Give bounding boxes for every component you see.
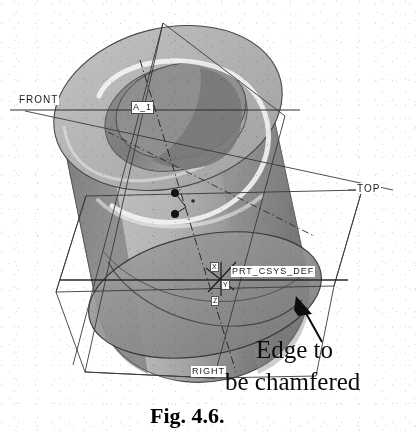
z-axis-tag: Z	[211, 296, 219, 306]
axis-label-a1: A_1	[131, 101, 154, 114]
y-axis-tag: Y	[221, 280, 230, 290]
tube-solid	[36, 2, 332, 382]
x-axis-tag: X	[210, 262, 219, 272]
datum-point-small	[191, 199, 195, 203]
datum-label-right: RIGHT	[191, 366, 226, 377]
figure-caption: Fig. 4.6.	[150, 404, 225, 428]
coord-system-label: PRT_CSYS_DEF	[231, 266, 315, 277]
figure-page: FRONT TOP RIGHT A_1 PRT_CSYS_DEF X Y Z E…	[0, 0, 418, 440]
chamfer-annotation-line-1: Edge to	[256, 336, 333, 363]
datum-label-top: TOP	[356, 183, 381, 194]
datum-label-front: FRONT	[18, 94, 59, 105]
chamfer-annotation-line-2: be chamfered	[225, 368, 360, 395]
